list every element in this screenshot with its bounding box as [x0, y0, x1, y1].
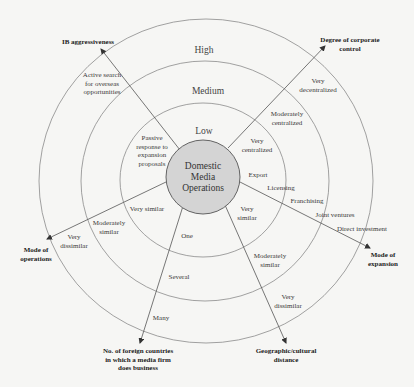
level-countries-one: One [181, 232, 193, 241]
level-countries-many: Many [153, 314, 169, 323]
axis-title-ib-aggressiveness: IB aggressiveness [62, 38, 114, 47]
level-expansion-licensing: Licensing [267, 184, 295, 193]
level-countries-several: Several [169, 273, 190, 282]
level-operations-medium: Moderately similar [93, 219, 125, 236]
level-geo-medium: Moderately similar [254, 252, 286, 269]
level-expansion-direct-investment: Direct investment [337, 225, 387, 234]
level-control-high: Very decentralized [299, 77, 336, 94]
level-control-medium: Moderately centralized [271, 110, 303, 127]
axis-title-foreign-countries: No. of foreign countries in which a medi… [103, 347, 173, 373]
level-operations-low: Very similar [130, 205, 164, 214]
axis-title-mode-of-operations: Mode of operations [20, 246, 52, 263]
ring-label-high: High [195, 46, 214, 55]
axis-line-geographic-distance [225, 205, 286, 343]
level-expansion-joint-ventures: Joint ventures [315, 211, 354, 220]
level-expansion-franchising: Franchising [290, 197, 323, 206]
axis-title-corporate-control: Degree of corporate control [320, 36, 379, 53]
level-control-low: Very centralized [242, 137, 273, 154]
ring-label-low: Low [195, 127, 212, 136]
axis-title-geographic-distance: Geographic/cultural distance [256, 347, 317, 364]
level-operations-high: Very dissimilar [60, 233, 88, 250]
axis-title-mode-of-expansion: Mode of expansion [368, 251, 398, 268]
level-expansion-export: Export [248, 171, 267, 180]
level-geo-low: Very similar [237, 205, 256, 222]
center-label: Domestic Media Operations [182, 161, 224, 194]
level-ib-low: Passive response to expansion proposals [136, 134, 168, 168]
level-geo-high: Very dissimilar [274, 293, 302, 310]
axis-line-corporate-control [228, 46, 325, 148]
level-ib-high: Active search for overseas opportunities [83, 71, 121, 97]
ring-label-medium: Medium [192, 87, 224, 96]
diagram-canvas [0, 0, 414, 387]
